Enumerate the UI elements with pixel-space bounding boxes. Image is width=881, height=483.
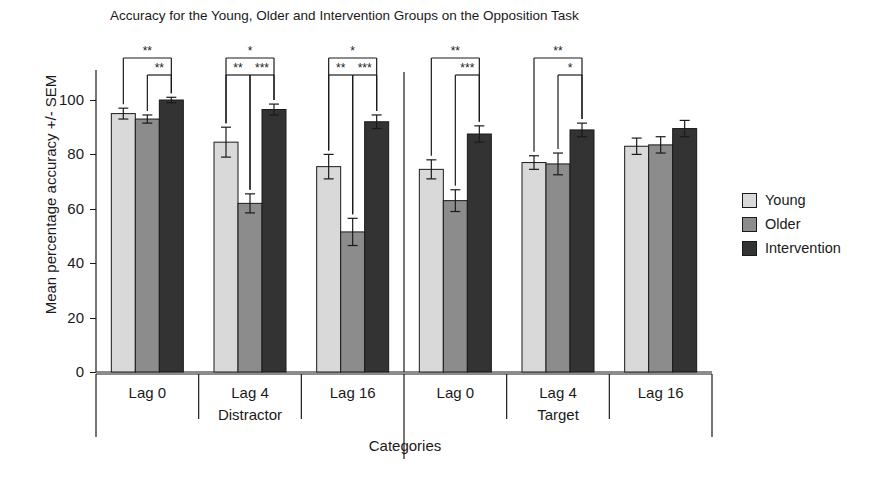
significance-stars: *** xyxy=(255,61,269,75)
bar xyxy=(467,134,491,372)
significance-stars: * xyxy=(248,44,253,58)
chart-container: Accuracy for the Young, Older and Interv… xyxy=(0,0,881,483)
bar xyxy=(341,232,365,372)
significance-stars: *** xyxy=(358,61,372,75)
significance-stars: *** xyxy=(460,61,474,75)
bar xyxy=(522,163,546,372)
significance-stars: ** xyxy=(553,44,563,58)
bar xyxy=(317,167,341,372)
bar xyxy=(546,164,570,372)
bar xyxy=(625,146,649,372)
legend-swatch-young xyxy=(742,193,757,208)
bar xyxy=(443,201,467,372)
bar xyxy=(159,100,183,372)
legend-label-older: Older xyxy=(765,216,800,232)
bar xyxy=(419,169,443,372)
legend-item-young: Young xyxy=(742,188,841,212)
bar xyxy=(214,142,238,372)
legend-item-intervention: Intervention xyxy=(742,236,841,260)
bar xyxy=(649,145,673,372)
bar xyxy=(365,122,389,372)
significance-stars: ** xyxy=(336,61,346,75)
bar xyxy=(673,129,697,372)
legend-label-young: Young xyxy=(765,192,806,208)
significance-stars: ** xyxy=(155,61,165,75)
chart-legend: Young Older Intervention xyxy=(742,188,841,260)
legend-label-intervention: Intervention xyxy=(765,240,841,256)
bar xyxy=(262,110,286,372)
significance-stars: * xyxy=(568,61,573,75)
bar xyxy=(570,130,594,372)
bar xyxy=(111,114,135,372)
significance-stars: ** xyxy=(143,44,153,58)
bar xyxy=(135,119,159,372)
legend-swatch-intervention xyxy=(742,241,757,256)
significance-stars: ** xyxy=(451,44,461,58)
significance-stars: ** xyxy=(233,61,243,75)
legend-swatch-older xyxy=(742,217,757,232)
significance-stars: * xyxy=(350,44,355,58)
legend-item-older: Older xyxy=(742,212,841,236)
bar xyxy=(238,203,262,372)
